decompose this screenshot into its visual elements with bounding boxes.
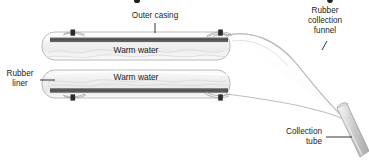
rubber-collection-funnel (225, 34, 343, 119)
svg-text:collection: collection (308, 16, 343, 25)
svg-text:Rubber: Rubber (312, 6, 339, 15)
top-warm-water-label: Warm water (114, 45, 159, 55)
diagram-canvas: Warm water Warm w (0, 0, 369, 164)
rubber-collection-funnel-label: Rubber collection funnel (308, 6, 343, 35)
svg-text:Collection: Collection (286, 127, 322, 136)
svg-text:funnel: funnel (314, 26, 336, 35)
top-dark-bar (50, 38, 228, 43)
top-tube-assembly: Warm water (42, 30, 232, 61)
diagram-figure: Warm water Warm w (0, 0, 369, 164)
rubber-liner-label: Rubber liner (7, 69, 34, 88)
collection-tube-graphic (337, 103, 369, 157)
cropped-title-fragment (134, 0, 333, 3)
outer-casing-label: Outer casing (132, 11, 179, 20)
svg-text:Rubber: Rubber (7, 69, 34, 78)
rubber-funnel-leader (322, 41, 327, 50)
collection-tube-label: Collection tube (286, 127, 322, 146)
svg-text:liner: liner (12, 79, 28, 88)
bottom-tube-assembly: Warm water (42, 70, 230, 101)
bottom-dark-bar (50, 88, 228, 93)
svg-text:tube: tube (306, 137, 322, 146)
bottom-warm-water-label: Warm water (114, 72, 159, 82)
